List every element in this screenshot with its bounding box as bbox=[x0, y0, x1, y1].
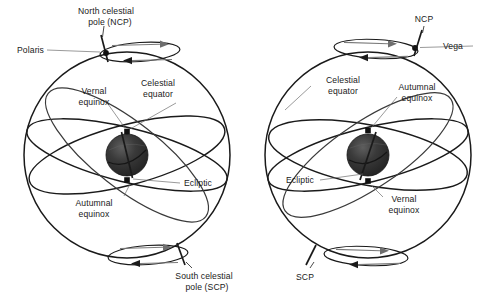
label-ncp-right: NCP bbox=[415, 14, 434, 24]
label-ecliptic-left: Ecliptic bbox=[184, 178, 213, 188]
celestial-axis-south-right bbox=[306, 245, 316, 265]
autumnal-equinox-point-left bbox=[124, 177, 130, 183]
leader-celestial-equator-left bbox=[131, 103, 176, 129]
label-autumnal-line1-left: Autumnal bbox=[75, 198, 112, 208]
label-vernal-line1-right: Vernal bbox=[392, 194, 417, 204]
autumnal-equinox-point-right bbox=[365, 128, 371, 134]
label-scp-right: SCP bbox=[296, 272, 314, 282]
label-ncp-line1-left: North celestial bbox=[78, 6, 134, 16]
precession-circle-south-right bbox=[324, 244, 409, 268]
precession-circle-south-left bbox=[107, 243, 188, 268]
label-celestial-equator-line1-right: Celestial bbox=[326, 75, 360, 85]
label-vernal-line2-right: equinox bbox=[389, 205, 420, 215]
label-autumnal-line1-right: Autumnal bbox=[398, 82, 435, 92]
panel-left: North celestial pole (NCP) Polaris Celes… bbox=[17, 6, 233, 292]
leader-ncp-left bbox=[103, 26, 105, 37]
label-autumnal-line2-right: equinox bbox=[402, 93, 433, 103]
precession-circle-north-right bbox=[334, 37, 419, 61]
vernal-equinox-point-left bbox=[124, 129, 130, 135]
precession-diagram: North celestial pole (NCP) Polaris Celes… bbox=[0, 0, 486, 304]
label-vega-right: Vega bbox=[443, 41, 463, 51]
label-autumnal-line2-left: equinox bbox=[79, 209, 110, 219]
leader-polaris-left bbox=[47, 50, 100, 52]
panel-right: NCP Vega Celestial equator Autumnal equi… bbox=[262, 14, 475, 282]
label-scp-line1-left: South celestial bbox=[175, 271, 232, 281]
label-vernal-line2-left: equinox bbox=[79, 97, 110, 107]
diagram-canvas: North celestial pole (NCP) Polaris Celes… bbox=[0, 0, 486, 304]
leader-scp-left bbox=[186, 262, 192, 268]
label-scp-line2-left: pole (SCP) bbox=[185, 282, 228, 292]
label-celestial-equator-line1-left: Celestial bbox=[141, 78, 175, 88]
label-polaris-left: Polaris bbox=[17, 45, 44, 55]
label-celestial-equator-line2-left: equator bbox=[143, 89, 173, 99]
leader-ncp-right bbox=[423, 26, 425, 33]
label-vernal-line1-left: Vernal bbox=[82, 86, 107, 96]
vernal-equinox-point-right bbox=[365, 178, 371, 184]
leader-scp-right bbox=[310, 262, 314, 268]
label-celestial-equator-line2-right: equator bbox=[328, 86, 358, 96]
label-ncp-line2-left: pole (NCP) bbox=[88, 17, 132, 27]
label-ecliptic-right: Ecliptic bbox=[286, 175, 315, 185]
north-celestial-pole-point-left bbox=[103, 50, 109, 56]
